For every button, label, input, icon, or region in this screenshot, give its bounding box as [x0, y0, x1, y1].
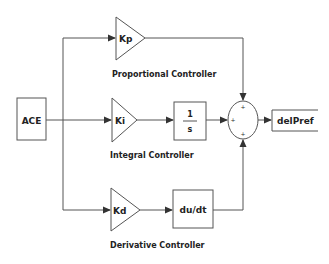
sum-sign-top: +	[240, 103, 245, 110]
integrator-denominator: s	[188, 125, 193, 134]
sum-sign-left: +	[230, 116, 235, 123]
pid-diagram: + + + ACE Kp Ki Kd 1 s du/dt delPref Pro…	[0, 0, 329, 264]
kp-label: Kp	[119, 34, 133, 44]
ace-label: ACE	[22, 116, 42, 126]
kd-label: Kd	[113, 206, 126, 216]
ki-label: Ki	[115, 116, 125, 126]
integrator-numerator: 1	[187, 110, 193, 119]
derivative-to-sum-wire	[213, 140, 243, 210]
delpref-label: delPref	[277, 116, 314, 126]
kp-to-sum-wire	[145, 38, 243, 100]
caption-proportional: Proportional Controller	[112, 70, 216, 79]
caption-derivative: Derivative Controller	[110, 241, 205, 250]
sum-sign-bottom: +	[240, 130, 245, 137]
derivative-label: du/dt	[180, 205, 208, 215]
caption-integral: Integral Controller	[110, 151, 194, 160]
